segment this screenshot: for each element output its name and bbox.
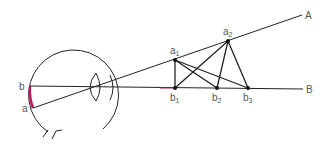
label-retina-a: a [22, 103, 28, 114]
label-b3: b3 [243, 92, 253, 104]
optic-nerve [43, 130, 62, 139]
label-b1: b1 [170, 92, 180, 104]
point-b3 [246, 86, 250, 90]
cornea [110, 75, 113, 100]
point-b2 [215, 86, 219, 90]
eye-perspective-diagram: b a A B a1 a2 b1 b2 b3 [0, 0, 329, 147]
label-line-B: B [306, 84, 313, 95]
retina-image-highlight [30, 86, 33, 108]
construction-lines [175, 41, 248, 88]
label-line-A: A [305, 10, 312, 21]
label-retina-b: b [19, 81, 25, 92]
eyeball-outline [29, 50, 119, 132]
point-a2 [226, 39, 230, 43]
label-a2: a2 [223, 26, 233, 38]
label-b2: b2 [212, 92, 222, 104]
point-b1 [173, 86, 177, 90]
point-a1 [173, 58, 177, 62]
label-a1: a1 [170, 45, 180, 57]
line-A [33, 15, 302, 108]
